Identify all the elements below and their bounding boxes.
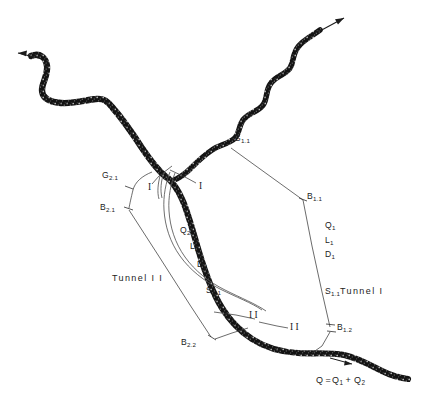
arrow-upstream-right-icon (318, 18, 344, 32)
label-g21: G2.1 (102, 170, 118, 181)
label-b22: B2.2 (181, 337, 196, 348)
label-g11: G1.1 (234, 133, 250, 144)
tunnel-2-node-g21-tick (125, 186, 133, 189)
tunnel-1-node-b12-tick (326, 324, 335, 325)
region-tunnel-2-label: Tunnel I I (112, 273, 163, 283)
section-ii-left: I I (249, 310, 258, 320)
river-branch-right-core (174, 30, 320, 180)
river-branch-right (174, 30, 320, 180)
section-ii-right-leader (259, 322, 288, 328)
label-q1: Q1 (325, 220, 336, 231)
tunnel-1-intake-leader (231, 148, 303, 200)
tunnel-1-node-b12-tick2 (327, 331, 336, 332)
diagram-svg: G1.1 G2.1 B1.1 B1.2 B2.1 B2.2 S1.1 S2.1 … (0, 0, 426, 415)
region-tunnel-1-label: Tunnel I (340, 286, 383, 296)
tunnel-1-alignment (231, 148, 336, 353)
label-d2: D2 (197, 259, 207, 270)
tunnel-2-inlet-stub-a (158, 176, 160, 199)
label-b11: B1.1 (307, 191, 322, 202)
label-s11: S1.1 (325, 286, 340, 297)
section-i-right: I (199, 181, 202, 191)
section-i-left: I (148, 182, 151, 192)
diagram-canvas: G1.1 G2.1 B1.1 B1.2 B2.1 B2.2 S1.1 S2.1 … (0, 0, 426, 415)
tunnel-2-node-b21-tick (124, 207, 133, 210)
label-b21: B2.1 (100, 202, 115, 213)
flow-arrows (18, 18, 352, 366)
tunnel-1-outlet-leader (312, 332, 330, 353)
continuity-equation: Q=Q1+Q2 (316, 375, 366, 386)
label-d1: D1 (325, 249, 335, 260)
label-l1: L1 (325, 235, 334, 246)
label-b12: B1.2 (337, 322, 352, 333)
tunnel-2-node-b22-tick (208, 335, 216, 340)
river-main-reach (168, 178, 408, 379)
section-ii-right: I I (290, 322, 299, 332)
river-branch-left (31, 55, 166, 177)
